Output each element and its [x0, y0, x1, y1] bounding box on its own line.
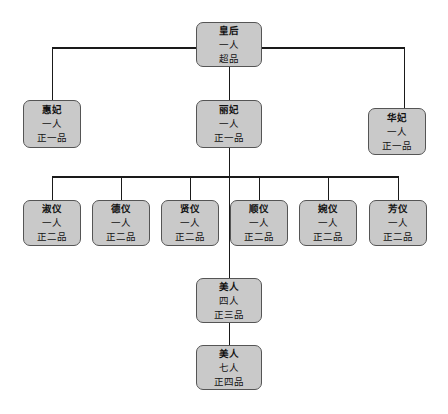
connector-consorts-horizontal: [52, 176, 399, 178]
connector-to-deyi: [121, 176, 123, 200]
node-count: 一人: [219, 38, 239, 52]
node-rank: 超品: [219, 52, 239, 66]
node-title: 美人: [219, 347, 239, 361]
node-count: 四人: [219, 294, 239, 308]
connector-meiren4-to-meiren7: [229, 323, 231, 345]
connector-to-wanyi: [328, 176, 330, 200]
node-empress: 皇后 一人 超品: [196, 22, 262, 67]
connector-to-fangyi: [398, 176, 400, 200]
node-shunyi: 顺仪 一人 正二品: [230, 200, 288, 246]
node-count: 一人: [318, 216, 338, 230]
node-rank: 正二品: [175, 230, 205, 244]
node-count: 一人: [388, 216, 408, 230]
node-title: 芳仪: [388, 202, 408, 216]
node-rank: 正二品: [383, 230, 413, 244]
node-wanyi: 婉仪 一人 正二品: [299, 200, 357, 246]
connector-to-lifei: [229, 67, 231, 100]
node-shuyi: 淑仪 一人 正二品: [23, 200, 81, 246]
node-title: 德仪: [111, 202, 131, 216]
node-count: 一人: [387, 125, 407, 139]
node-deyi: 德仪 一人 正二品: [92, 200, 150, 246]
node-count: 一人: [180, 216, 200, 230]
node-rank: 正二品: [37, 230, 67, 244]
connector-to-huafei: [404, 47, 406, 108]
node-meiren-four: 美人 四人 正三品: [196, 278, 262, 323]
node-meiren-seven: 美人 七人 正四品: [196, 345, 262, 390]
node-count: 一人: [42, 117, 62, 131]
node-count: 一人: [249, 216, 269, 230]
node-fangyi: 芳仪 一人 正二品: [369, 200, 427, 246]
node-title: 顺仪: [249, 202, 269, 216]
connector-to-xianyi: [190, 176, 192, 200]
node-rank: 正二品: [106, 230, 136, 244]
node-lifei: 丽妃 一人 正一品: [196, 100, 262, 148]
connector-to-shuyi: [52, 176, 54, 200]
node-title: 惠妃: [42, 103, 62, 117]
node-count: 一人: [42, 216, 62, 230]
node-rank: 正四品: [214, 375, 244, 389]
node-huafei: 华妃 一人 正一品: [368, 108, 426, 155]
node-rank: 正一品: [382, 139, 412, 153]
node-title: 丽妃: [219, 103, 239, 117]
node-count: 一人: [219, 117, 239, 131]
node-huifei: 惠妃 一人 正一品: [23, 100, 81, 148]
connector-to-shunyi: [259, 176, 261, 200]
node-rank: 正一品: [214, 131, 244, 145]
node-rank: 正一品: [37, 131, 67, 145]
node-title: 皇后: [219, 24, 239, 38]
node-title: 华妃: [387, 111, 407, 125]
node-title: 淑仪: [42, 202, 62, 216]
node-title: 婉仪: [318, 202, 338, 216]
node-rank: 正二品: [313, 230, 343, 244]
node-rank: 正二品: [244, 230, 274, 244]
node-count: 一人: [111, 216, 131, 230]
node-rank: 正三品: [214, 308, 244, 322]
node-title: 贤仪: [180, 202, 200, 216]
connector-to-huifei: [52, 47, 54, 100]
node-title: 美人: [219, 280, 239, 294]
node-count: 七人: [219, 361, 239, 375]
node-xianyi: 贤仪 一人 正二品: [161, 200, 219, 246]
